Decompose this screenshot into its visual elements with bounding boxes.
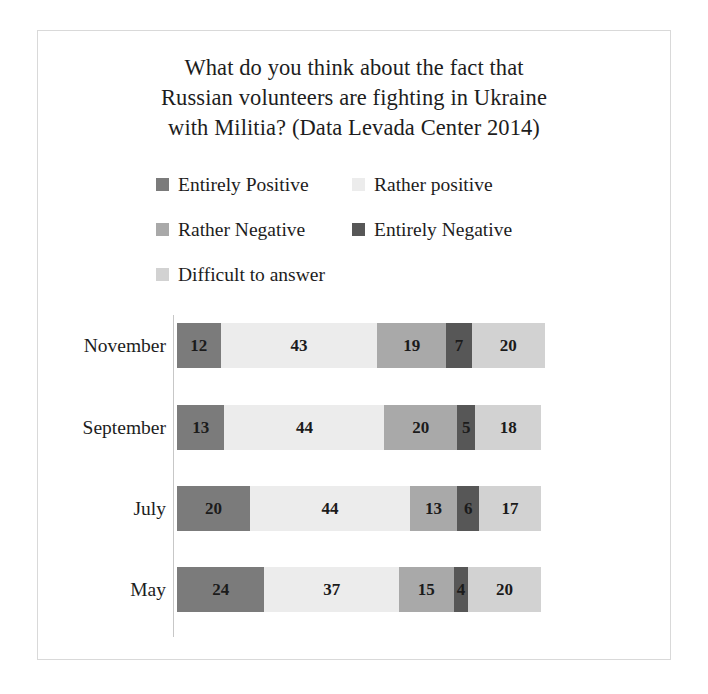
legend-item-difficult-to-answer[interactable]: Difficult to answer: [156, 264, 352, 286]
stacked-bar[interactable]: 134420518: [177, 405, 541, 450]
legend-swatch-icon: [156, 268, 169, 281]
bar-value-label: 20: [500, 336, 517, 356]
bar-value-label: 24: [212, 580, 229, 600]
bar-value-label: 15: [418, 580, 435, 600]
chart-title-line-3: with Militia? (Data Levada Center 2014): [38, 113, 670, 143]
bar-value-label: 18: [500, 418, 517, 438]
bar-segment: 44: [250, 486, 410, 531]
bar-row: November 124319720: [38, 323, 670, 368]
bar-segment: 12: [177, 323, 221, 368]
legend-item-entirely-negative[interactable]: Entirely Negative: [352, 219, 512, 241]
bar-row: September 134420518: [38, 405, 670, 450]
bar-segment: 13: [410, 486, 457, 531]
category-label: September: [38, 417, 177, 439]
chart-title-line-2: Russian volunteers are fighting in Ukrai…: [38, 83, 670, 113]
bar-segment: 20: [468, 567, 541, 612]
legend-row: Rather Negative Entirely Negative: [156, 207, 576, 252]
bar-segment: 20: [472, 323, 545, 368]
bar-value-label: 43: [290, 336, 307, 356]
bar-segment: 20: [384, 405, 457, 450]
bar-segment: 37: [264, 567, 399, 612]
bar-segment: 44: [224, 405, 384, 450]
chart-frame: What do you think about the fact that Ru…: [37, 30, 671, 660]
category-label: May: [38, 579, 177, 601]
bar-segment: 15: [399, 567, 454, 612]
chart-title: What do you think about the fact that Ru…: [38, 53, 670, 143]
bar-segment: 17: [479, 486, 541, 531]
bar-value-label: 17: [502, 499, 519, 519]
bar-value-label: 6: [464, 499, 473, 519]
stacked-bar[interactable]: 243715420: [177, 567, 541, 612]
legend-item-label: Entirely Positive: [178, 174, 309, 196]
bar-segment: 19: [377, 323, 446, 368]
legend-item-label: Rather Negative: [178, 219, 305, 241]
bar-value-label: 20: [205, 499, 222, 519]
bar-value-label: 37: [323, 580, 340, 600]
bar-value-label: 44: [296, 418, 313, 438]
bar-segment: 24: [177, 567, 264, 612]
bar-segment: 43: [221, 323, 378, 368]
legend-swatch-icon: [156, 178, 169, 191]
bar-value-label: 7: [455, 336, 464, 356]
stacked-bar[interactable]: 124319720: [177, 323, 545, 368]
bar-row: July 204413617: [38, 486, 670, 531]
plot-area: November 124319720 September 134420518 J…: [38, 313, 670, 643]
bar-value-label: 13: [425, 499, 442, 519]
legend-row: Entirely Positive Rather positive: [156, 162, 576, 207]
bar-segment: 4: [454, 567, 469, 612]
bar-value-label: 5: [462, 418, 471, 438]
legend-row: Difficult to answer: [156, 252, 576, 297]
bar-value-label: 44: [321, 499, 338, 519]
bar-segment: 13: [177, 405, 224, 450]
legend-item-rather-negative[interactable]: Rather Negative: [156, 219, 352, 241]
bar-segment: 18: [475, 405, 541, 450]
legend-item-label: Rather positive: [374, 174, 493, 196]
bar-value-label: 20: [412, 418, 429, 438]
bar-segment: 6: [457, 486, 479, 531]
legend-swatch-icon: [352, 178, 365, 191]
bar-value-label: 13: [192, 418, 209, 438]
bar-row: May 243715420: [38, 567, 670, 612]
legend-swatch-icon: [352, 223, 365, 236]
legend-item-rather-positive[interactable]: Rather positive: [352, 174, 493, 196]
bar-value-label: 4: [457, 580, 466, 600]
legend-item-label: Difficult to answer: [178, 264, 325, 286]
bar-value-label: 12: [190, 336, 207, 356]
chart-legend: Entirely Positive Rather positive Rather…: [156, 162, 576, 297]
category-label: November: [38, 335, 177, 357]
chart-title-line-1: What do you think about the fact that: [38, 53, 670, 83]
bar-segment: 5: [457, 405, 475, 450]
legend-item-entirely-positive[interactable]: Entirely Positive: [156, 174, 352, 196]
stacked-bar[interactable]: 204413617: [177, 486, 541, 531]
legend-swatch-icon: [156, 223, 169, 236]
legend-item-label: Entirely Negative: [374, 219, 512, 241]
bar-segment: 7: [446, 323, 471, 368]
category-label: July: [38, 498, 177, 520]
bar-segment: 20: [177, 486, 250, 531]
bar-value-label: 19: [403, 336, 420, 356]
bar-value-label: 20: [496, 580, 513, 600]
